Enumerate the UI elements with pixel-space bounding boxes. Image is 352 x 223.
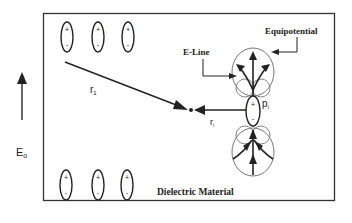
dielectric-diagram: Eo + - + - + - + - + - xyxy=(0,0,352,223)
dipole-icon: + - xyxy=(92,170,104,200)
dielectric-box xyxy=(44,14,335,201)
svg-text:-: - xyxy=(97,189,100,196)
upper-field-pattern xyxy=(232,48,274,98)
dipole-icon: + - xyxy=(92,22,104,52)
svg-text:-: - xyxy=(65,189,68,196)
dipole-icon: + - xyxy=(61,22,73,52)
dipole-icon: + - xyxy=(122,22,134,52)
central-dipole-icon: + - xyxy=(246,96,260,126)
r1-vector xyxy=(65,62,188,110)
e-line-label: E-Line xyxy=(183,47,210,57)
external-field-label: Eo xyxy=(16,146,27,159)
dipole-icon: + - xyxy=(60,170,72,200)
svg-text:-: - xyxy=(66,41,69,48)
svg-text:+: + xyxy=(65,26,69,33)
svg-text:-: - xyxy=(126,189,129,196)
top-dipole-row: + - + - + - xyxy=(61,22,134,52)
svg-text:+: + xyxy=(64,174,68,181)
bottom-dipole-row: + - + - + - xyxy=(60,170,133,200)
equipotential-leader xyxy=(271,37,297,55)
svg-text:-: - xyxy=(97,41,100,48)
svg-text:+: + xyxy=(251,101,255,108)
ri-vector xyxy=(194,105,247,115)
ri-label: ri xyxy=(210,117,214,128)
svg-text:+: + xyxy=(96,26,100,33)
external-field-arrow xyxy=(17,72,27,120)
r1-label: r1 xyxy=(90,84,97,96)
dielectric-material-label: Dielectric Material xyxy=(157,187,234,197)
svg-text:+: + xyxy=(96,174,100,181)
equipotential-label: Equipotential xyxy=(265,26,318,36)
svg-text:+: + xyxy=(125,174,129,181)
dipole-icon: + - xyxy=(121,170,133,200)
field-point xyxy=(189,108,193,112)
pi-label: pi xyxy=(262,98,269,110)
lower-field-pattern xyxy=(232,126,274,176)
svg-text:+: + xyxy=(126,26,130,33)
svg-text:-: - xyxy=(127,41,130,48)
